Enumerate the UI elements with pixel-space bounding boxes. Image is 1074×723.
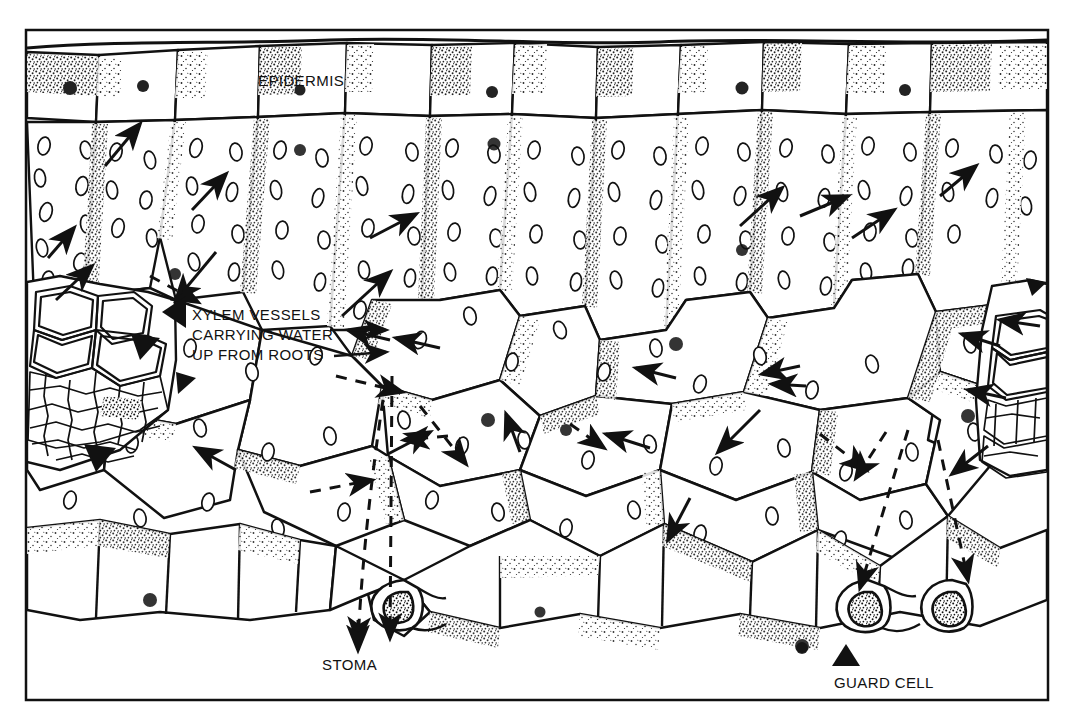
label-epidermis-text: EPIDERMIS	[258, 72, 344, 89]
label-xylem-line3: UP FROM ROOTS	[192, 346, 324, 363]
diagram-canvas: EPIDERMIS XYLEM VESSELS CARRYING WATER U…	[0, 0, 1074, 723]
xylem-left-texture	[100, 396, 142, 420]
label-guard-cell-text: GUARD CELL	[834, 674, 934, 691]
label-epidermis: EPIDERMIS	[258, 72, 344, 89]
leaf-tissue-group	[27, 39, 1047, 654]
leaf-cross-section-figure: EPIDERMIS XYLEM VESSELS CARRYING WATER U…	[0, 0, 1074, 723]
label-xylem-line2: CARRYING WATER	[192, 326, 333, 343]
label-xylem-line1: XYLEM VESSELS	[192, 306, 321, 323]
label-stoma-text: STOMA	[322, 656, 377, 673]
